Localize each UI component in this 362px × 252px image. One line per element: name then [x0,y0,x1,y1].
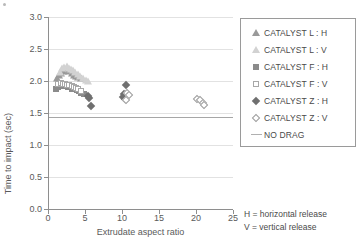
plot-area: 0.00.51.01.52.02.53.00510152025 [48,17,233,210]
y-tick [44,81,48,82]
y-tick-label: 2.0 [29,77,42,86]
x-axis-title: Extrudate aspect ratio [48,227,233,237]
y-tick [44,145,48,146]
x-tick-label: 0 [45,214,50,223]
y-tick [44,113,48,114]
y-tick-label: 1.0 [29,141,42,150]
x-axis-line [48,209,233,210]
y-tick-label: 0.5 [29,173,42,182]
triangle-filled-icon [248,27,264,38]
y-axis-title: Time to impact (sec) [3,113,13,194]
square-open-icon [248,78,264,89]
notes-block: H = horizontal releaseV = vertical relea… [244,208,327,234]
legend-item-label: NO DRAG [264,130,304,140]
legend-item-label: CATALYST L : H [264,28,327,38]
y-tick [44,49,48,50]
note-line: V = vertical release [244,221,327,234]
y-tick-label: 3.0 [29,13,42,22]
diamond-filled-icon [248,95,264,106]
legend-item[interactable]: CATALYST Z : V [241,109,355,126]
note-line: H = horizontal release [244,208,327,221]
gridline-y [49,113,233,114]
legend-item[interactable]: NO DRAG [241,126,355,143]
x-tick-label: 10 [117,214,127,223]
no-drag-reference-line [49,117,233,118]
gridline-y [49,17,233,18]
y-tick-label: 0.0 [29,205,42,214]
legend-item-label: CATALYST F : H [264,62,328,72]
legend-item[interactable]: CATALYST F : V [241,75,355,92]
diamond-open-icon [248,112,264,123]
chart-figure: Time to impact (sec) Extrudate aspect ra… [0,0,362,252]
x-tick-label: 25 [228,214,238,223]
legend-item-label: CATALYST L : V [264,45,327,55]
corner-artifact [3,3,6,6]
legend-item[interactable]: CATALYST Z : H [241,92,355,109]
legend-item-label: CATALYST Z : H [264,96,328,106]
legend-item-label: CATALYST Z : V [264,113,328,123]
gridline-y [49,177,233,178]
data-point [87,102,95,110]
y-tick-label: 1.5 [29,109,42,118]
gridline-y [49,145,233,146]
line-icon [248,129,264,140]
x-tick-label: 20 [191,214,201,223]
legend-item[interactable]: CATALYST L : H [241,24,355,41]
x-tick-label: 5 [82,214,87,223]
y-tick [44,17,48,18]
data-point [84,78,92,85]
legend-item[interactable]: CATALYST F : H [241,58,355,75]
data-point [85,93,93,101]
y-tick [44,177,48,178]
legend-box[interactable]: CATALYST L : HCATALYST L : VCATALYST F :… [240,18,356,147]
triangle-open-icon [248,44,264,55]
data-point [78,88,84,94]
x-tick-label: 15 [154,214,164,223]
legend-item[interactable]: CATALYST L : V [241,41,355,58]
square-filled-icon [248,61,264,72]
y-tick-label: 2.5 [29,45,42,54]
legend-item-label: CATALYST F : V [264,79,328,89]
gridline-y [49,49,233,50]
